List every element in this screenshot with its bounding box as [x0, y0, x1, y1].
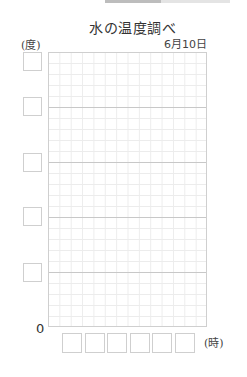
x-tick-box-2[interactable] [85, 333, 105, 353]
y-tick-box-3[interactable] [23, 153, 42, 172]
y-tick-box-5[interactable] [23, 263, 42, 282]
graph-grid [48, 52, 207, 327]
y-tick-box-4[interactable] [23, 207, 42, 226]
x-tick-box-1[interactable] [62, 333, 82, 353]
chart-title: 水の温度調べ [0, 17, 247, 37]
origin-label: 0 [36, 321, 44, 336]
chart-date: 6月10日 [164, 35, 207, 51]
y-tick-box-2[interactable] [23, 97, 42, 116]
x-axis-unit: (時) [204, 334, 224, 350]
y-axis-unit: (度) [21, 36, 41, 52]
x-tick-box-6[interactable] [175, 333, 195, 353]
x-tick-box-4[interactable] [130, 333, 150, 353]
x-tick-box-5[interactable] [152, 333, 172, 353]
y-tick-box-1[interactable] [23, 52, 42, 71]
x-tick-box-3[interactable] [107, 333, 127, 353]
top-bar [105, 0, 230, 3]
